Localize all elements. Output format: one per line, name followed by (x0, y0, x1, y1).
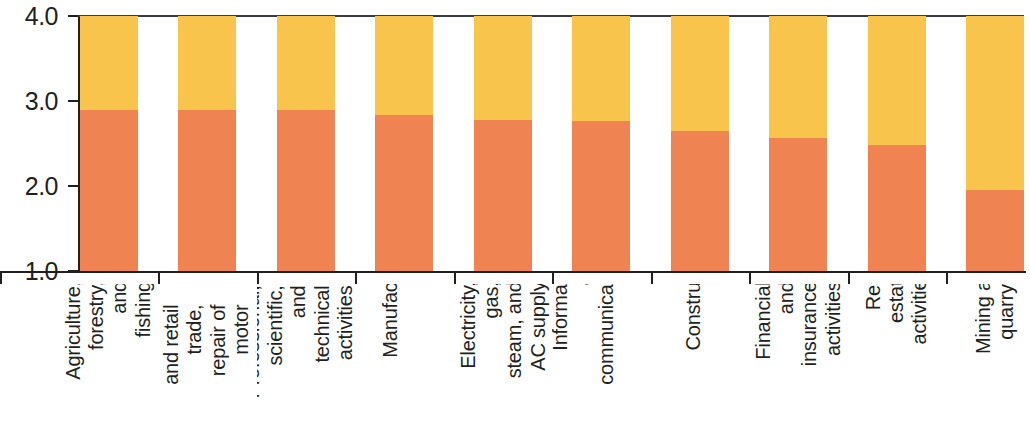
x-tick-mark (158, 271, 160, 284)
bar (671, 16, 729, 271)
x-axis-category-labels: Agriculture, forestry, and fishingWholes… (80, 284, 1024, 425)
plot-area (80, 16, 1024, 271)
bar-segment-upper (277, 16, 335, 110)
x-axis-label: Information and communication (552, 284, 650, 425)
bar-segment-lower (277, 110, 335, 272)
bar-segment-upper (572, 16, 630, 121)
bar-segment-lower (966, 190, 1024, 271)
bar (277, 16, 335, 271)
x-axis-label: Wholesale and retail trade, repair of mo… (158, 284, 256, 425)
x-tick-mark (257, 271, 259, 284)
bar-segment-upper (474, 16, 532, 120)
x-axis-label: Construction (651, 284, 749, 425)
x-tick-mark (454, 271, 456, 284)
x-axis-label-text: Construction (682, 284, 705, 351)
y-tick-mark-3 (68, 100, 80, 102)
x-axis-label-text: Electricity, gas, steam, and AC supply (457, 284, 550, 379)
bar-segment-lower (572, 121, 630, 271)
x-tick-mark (946, 271, 948, 284)
bar-segment-upper (671, 16, 729, 131)
x-tick-mark (552, 271, 554, 284)
x-axis-label-text: Information and communication (552, 284, 619, 385)
bar-segment-upper (80, 16, 138, 110)
bar (80, 16, 138, 271)
x-axis-label-text: Professional, scientific, and technical … (257, 285, 355, 398)
y-tick-label-3: 3.0 (25, 89, 58, 114)
x-axis-label: Real estate activities (848, 284, 946, 425)
x-axis-label: Agriculture, forestry, and fishing (60, 284, 158, 425)
bar-segment-upper (966, 16, 1024, 190)
stacked-bar-chart: 4.0 3.0 2.0 1.0 Agriculture, forestry, a… (0, 0, 1030, 425)
x-axis-label-text: Financial and insurance activities (752, 284, 845, 379)
x-axis-label-text: Manufacturing (379, 284, 402, 358)
bar (966, 16, 1024, 271)
x-axis-label-text: Agriculture, forestry, and fishing (62, 284, 155, 380)
bar-segment-upper (868, 16, 926, 145)
x-tick-mark (848, 271, 850, 284)
x-axis-label: Mining and quarrying (946, 284, 1030, 425)
bar-segment-lower (178, 110, 236, 272)
bar-segment-upper (178, 16, 236, 110)
bar (474, 16, 532, 271)
x-axis-label-text: Wholesale and retail trade, repair of mo… (158, 305, 256, 403)
x-tick-mark (749, 271, 751, 284)
x-axis-label-text: Real estate activities (862, 284, 932, 368)
bar (769, 16, 827, 271)
x-axis-label: Manufacturing (355, 284, 453, 425)
y-tick-mark-2 (68, 185, 80, 187)
bar-segment-lower (671, 131, 729, 271)
bar (572, 16, 630, 271)
bar (868, 16, 926, 271)
x-axis-label: Electricity, gas, steam, and AC supply (454, 284, 552, 425)
bar (178, 16, 236, 271)
x-tick-mark (0, 271, 2, 284)
bar (375, 16, 433, 271)
bar-segment-upper (375, 16, 433, 115)
x-axis-label: Professional, scientific, and technical … (257, 284, 355, 425)
x-axis-line (0, 271, 1026, 273)
bar-segment-lower (80, 110, 138, 272)
x-tick-mark (355, 271, 357, 284)
bar-segment-lower (868, 145, 926, 271)
bar-segment-lower (474, 120, 532, 271)
x-tick-mark (651, 271, 653, 284)
y-tick-label-4: 4.0 (25, 4, 58, 29)
x-axis-label-text: Mining and quarrying (972, 284, 1018, 356)
bar-segment-lower (769, 138, 827, 271)
x-axis-label: Financial and insurance activities (749, 284, 847, 425)
bar-segment-upper (769, 16, 827, 138)
bar-segment-lower (375, 115, 433, 271)
y-tick-label-2: 2.0 (25, 174, 58, 199)
